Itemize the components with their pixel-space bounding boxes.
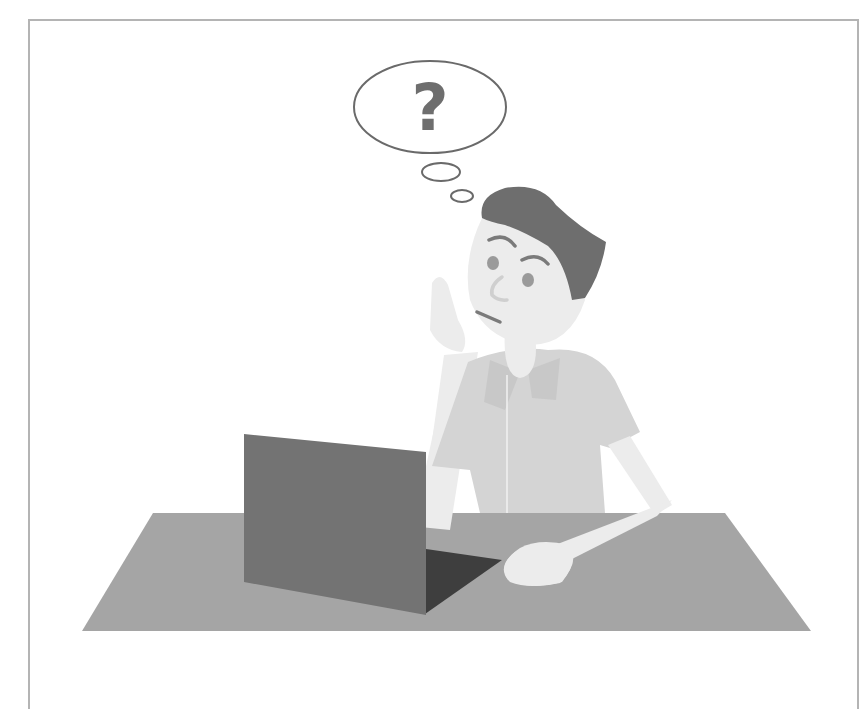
man-eye-left	[487, 256, 499, 270]
question-mark-icon: ?	[411, 71, 448, 145]
man-head	[430, 187, 606, 352]
man-chin-hand	[430, 277, 465, 352]
thought-bubble: ?	[354, 61, 506, 202]
man-eye-right	[522, 273, 534, 287]
